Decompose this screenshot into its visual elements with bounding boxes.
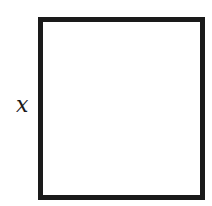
rectangle-shape [38, 17, 205, 200]
side-length-label: x [16, 94, 28, 116]
